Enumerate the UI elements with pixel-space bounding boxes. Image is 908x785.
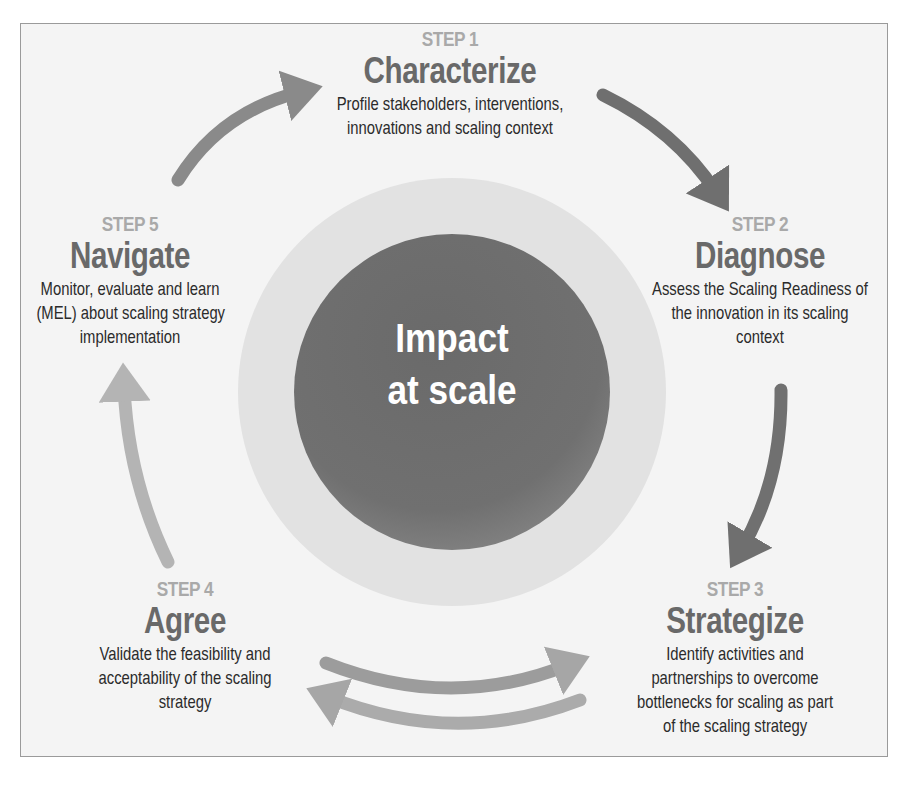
step-4-desc-line: Validate the feasibility and (88, 642, 283, 666)
step-5-desc-line: implementation (36, 325, 223, 349)
center-title-line1: Impact (320, 312, 584, 364)
step-2-desc-line: context (651, 325, 869, 349)
arrow-step4-to-step5-icon (124, 386, 168, 562)
arrow-step3-to-step4-icon (328, 697, 580, 723)
step-5-block: STEP 5 Navigate Monitor, evaluate and le… (10, 212, 250, 349)
step-1-block: STEP 1 Characterize Profile stakeholders… (280, 27, 620, 140)
step-5-title: Navigate (34, 235, 226, 277)
step-3-block: STEP 3 Strategize Identify activities an… (600, 577, 870, 738)
step-5-desc-line: Monitor, evaluate and learn (36, 277, 223, 301)
arrow-step4-to-step3-icon (326, 663, 568, 688)
step-3-desc-line: bottlenecks for scaling as part (630, 690, 841, 714)
step-2-block: STEP 2 Diagnose Assess the Scaling Readi… (620, 212, 900, 349)
step-3-label: STEP 3 (624, 577, 845, 601)
center-title: Impact at scale (320, 312, 584, 416)
step-1-desc-line: Profile stakeholders, interventions, (317, 92, 582, 116)
step-2-desc-line: the innovation in its scaling (651, 301, 869, 325)
step-3-title: Strategize (627, 600, 843, 642)
step-4-label: STEP 4 (83, 577, 288, 601)
step-3-desc-line: of the scaling strategy (630, 714, 841, 738)
step-5-desc-line: (MEL) about scaling strategy (36, 301, 223, 325)
step-1-title: Characterize (314, 50, 586, 92)
step-4-desc-line: acceptability of the scaling (88, 666, 283, 690)
step-4-title: Agree (85, 600, 285, 642)
step-1-label: STEP 1 (311, 27, 590, 51)
step-4-block: STEP 4 Agree Validate the feasibility an… (60, 577, 310, 714)
step-2-label: STEP 2 (645, 212, 875, 236)
step-2-title: Diagnose (648, 235, 872, 277)
arrow-step2-to-step3-icon (742, 390, 781, 548)
step-2-desc-line: Assess the Scaling Readiness of (651, 277, 869, 301)
step-5-label: STEP 5 (32, 212, 229, 236)
step-1-desc-line: innovations and scaling context (317, 116, 582, 140)
step-4-desc-line: strategy (88, 690, 283, 714)
center-title-line2: at scale (320, 364, 584, 416)
step-3-desc-line: partnerships to overcome (630, 666, 841, 690)
step-3-desc-line: Identify activities and (630, 642, 841, 666)
